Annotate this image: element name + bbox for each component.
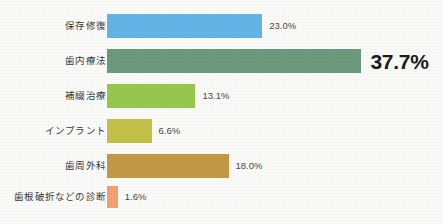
value-label: 13.1% <box>202 91 229 101</box>
bar <box>107 154 229 178</box>
bar-group: 6.6% <box>107 119 180 143</box>
chart-row: インプラント6.6% <box>0 119 443 143</box>
bar <box>107 119 152 143</box>
bar <box>107 186 118 208</box>
category-label: 補綴治療 <box>65 91 106 101</box>
value-label-emphasis: 37.7% <box>370 51 428 72</box>
bar <box>107 84 195 108</box>
chart-row: 保存修復23.0% <box>0 14 443 38</box>
category-label: 保存修復 <box>65 21 106 31</box>
category-label: 歯根破折などの診断 <box>14 192 106 202</box>
bar <box>107 14 262 38</box>
chart-row: 歯周外科18.0% <box>0 154 443 178</box>
bar-group: 1.6% <box>107 186 146 208</box>
bar <box>107 49 361 73</box>
value-label: 6.6% <box>159 126 181 136</box>
value-label: 18.0% <box>236 161 263 171</box>
bar-group: 37.7% <box>107 49 429 73</box>
chart-row: 補綴治療13.1% <box>0 84 443 108</box>
bar-chart: 保存修復23.0%歯内療法37.7%補綴治療13.1%インプラント6.6%歯周外… <box>0 0 443 224</box>
bar-group: 13.1% <box>107 84 229 108</box>
bar-group: 18.0% <box>107 154 262 178</box>
category-label: 歯周外科 <box>65 161 106 171</box>
chart-row: 歯内療法37.7% <box>0 49 443 73</box>
bar-group: 23.0% <box>107 14 296 38</box>
chart-row: 歯根破折などの診断1.6% <box>0 186 443 208</box>
value-label: 1.6% <box>125 192 147 202</box>
category-label: 歯内療法 <box>65 56 106 66</box>
value-label: 23.0% <box>269 21 296 31</box>
category-label: インプラント <box>45 126 106 136</box>
